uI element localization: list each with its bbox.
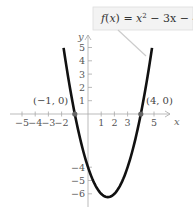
y-tick-label: 1: [79, 95, 85, 106]
function-callout: f(x) = x2 − 3x − 4: [93, 7, 193, 56]
x-tick-label: 5: [151, 117, 157, 128]
x-tick-label: −4: [28, 117, 42, 128]
function-label: f(x) = x2 − 3x − 4: [100, 12, 193, 25]
y-tick-label: 4: [79, 55, 85, 66]
point-label-right: (4, 0): [146, 95, 173, 106]
parabola-graph: f(x) = x2 − 3x − 4 −5−4−3−21235 54321−4−…: [0, 0, 193, 214]
x-tick-label: −2: [55, 117, 69, 128]
x-tick-label: 2: [111, 117, 117, 128]
y-tick-label: −5: [71, 175, 85, 186]
y-tick-label: −4: [71, 162, 85, 173]
y-axis-label: y: [77, 31, 84, 42]
x-axis-label: x: [174, 116, 180, 127]
y-tick-label: 5: [79, 42, 85, 53]
x-tick-label: 3: [125, 117, 131, 128]
y-tick-label: 3: [79, 69, 85, 80]
y-tick-label: −6: [71, 188, 85, 199]
x-tick-label: −3: [41, 117, 55, 128]
y-tick-label: 2: [79, 82, 85, 93]
callout-pointer: [118, 30, 146, 56]
point-label-left: (−1, 0): [33, 95, 68, 106]
y-ticks: 54321−4−5−6: [71, 42, 92, 199]
intercept-point: [72, 111, 77, 116]
intercept-point: [138, 111, 143, 116]
x-tick-label: 1: [98, 117, 104, 128]
x-tick-label: −5: [15, 117, 29, 128]
